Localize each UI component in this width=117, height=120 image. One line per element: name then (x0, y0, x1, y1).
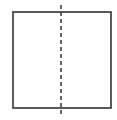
square-shape (13, 12, 111, 108)
square-symmetry-diagram (0, 0, 117, 120)
